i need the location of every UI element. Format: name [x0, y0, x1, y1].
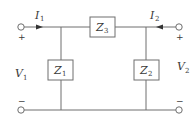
svg-text:2: 2 [155, 15, 159, 23]
voltage-label-v2: V 2 [177, 60, 189, 75]
svg-text:1: 1 [62, 70, 66, 78]
impedance-z2: Z 2 [134, 60, 159, 80]
port1-plus-sign: + [18, 32, 26, 42]
port2-minus-sign: − [176, 96, 184, 106]
svg-text:2: 2 [185, 67, 189, 75]
current-arrow-i2-icon [156, 25, 163, 30]
port2-plus-sign: + [176, 32, 184, 42]
current-arrow-i1-icon [36, 25, 43, 30]
terminal-port1-plus [18, 24, 24, 30]
svg-text:Z: Z [139, 64, 148, 77]
svg-text:Z: Z [53, 64, 62, 77]
terminal-port2-minus [176, 107, 182, 113]
current-label-i2: I 2 [149, 9, 159, 23]
voltage-label-v1: V 1 [15, 67, 27, 82]
svg-text:Z: Z [95, 21, 104, 34]
circuit-diagram: Z 3 Z 1 Z 2 I 1 I 2 + + − − V 1 V 2 [0, 0, 196, 126]
impedance-z1: Z 1 [48, 60, 73, 80]
svg-text:3: 3 [104, 27, 108, 35]
terminal-port1-minus [18, 107, 24, 113]
terminal-port2-plus [176, 24, 182, 30]
svg-text:2: 2 [148, 70, 152, 78]
svg-text:1: 1 [40, 15, 44, 23]
impedance-z3: Z 3 [90, 17, 115, 37]
svg-text:1: 1 [23, 74, 27, 82]
current-label-i1: I 1 [34, 9, 44, 23]
port1-minus-sign: − [18, 96, 26, 106]
